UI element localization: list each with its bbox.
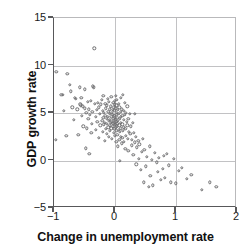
data-point	[61, 93, 64, 96]
data-point	[100, 98, 103, 101]
data-point	[92, 86, 95, 89]
data-point	[127, 117, 130, 120]
data-point	[215, 185, 218, 188]
data-point	[131, 121, 134, 124]
data-point	[151, 183, 154, 186]
data-point	[88, 113, 91, 116]
y-axis-tick	[48, 111, 53, 113]
data-point	[155, 161, 158, 164]
data-point	[110, 95, 113, 98]
data-point	[121, 93, 124, 96]
data-point	[200, 188, 203, 191]
data-point	[130, 144, 133, 147]
data-point	[97, 136, 100, 139]
data-point	[185, 177, 188, 180]
gridline-y	[54, 161, 235, 162]
data-point	[80, 114, 83, 117]
data-point	[64, 134, 67, 137]
data-point	[174, 182, 177, 185]
y-axis-tick-label: 15	[0, 11, 46, 23]
data-point	[72, 118, 75, 121]
data-point	[103, 139, 106, 142]
data-point	[95, 108, 98, 111]
data-point	[88, 152, 91, 155]
data-point	[116, 145, 119, 148]
data-point	[165, 152, 168, 155]
data-point	[132, 153, 135, 156]
data-point	[78, 86, 81, 89]
y-axis-title: GDP growth rate	[25, 34, 39, 204]
data-point	[169, 181, 172, 184]
data-point	[94, 115, 97, 118]
data-point	[126, 137, 129, 140]
data-point	[80, 96, 83, 99]
data-point	[190, 173, 193, 176]
data-point	[83, 88, 86, 91]
data-point	[161, 167, 164, 170]
data-point	[133, 141, 136, 144]
gridline-y	[54, 66, 235, 67]
data-point	[133, 112, 136, 115]
data-point	[90, 122, 93, 125]
data-point	[129, 125, 132, 128]
data-point	[147, 185, 150, 188]
data-point	[163, 176, 166, 179]
data-point	[135, 145, 138, 148]
x-axis-tick-label: 1	[160, 210, 190, 222]
data-point	[86, 117, 89, 120]
plot-area	[53, 17, 236, 207]
data-point	[99, 103, 102, 106]
data-point	[118, 159, 121, 162]
data-point	[167, 164, 170, 167]
y-axis-tick	[48, 159, 53, 161]
data-point	[143, 148, 146, 151]
data-point	[145, 155, 148, 158]
y-axis-tick-label: 10	[0, 59, 46, 71]
data-point	[110, 137, 113, 140]
data-point	[97, 106, 100, 109]
data-point	[141, 137, 144, 140]
data-point	[125, 105, 128, 108]
data-point	[144, 164, 147, 167]
scatter-chart-figure: −5051015−1012 GDP growth rate Change in …	[0, 0, 251, 251]
data-point	[177, 169, 180, 172]
data-point	[139, 168, 142, 171]
x-axis-title: Change in unemployment rate	[0, 230, 251, 244]
y-axis-tick-label: 5	[0, 106, 46, 118]
y-axis-tick	[48, 16, 53, 18]
x-axis-tick-label: 0	[99, 210, 129, 222]
data-point	[98, 112, 101, 115]
data-point	[122, 140, 125, 143]
data-point	[138, 143, 141, 146]
data-point	[77, 133, 80, 136]
data-point	[89, 99, 92, 102]
data-point	[83, 107, 86, 110]
data-point	[119, 96, 122, 99]
data-point	[157, 156, 160, 159]
data-point	[54, 138, 57, 141]
x-axis-tick-label: −1	[38, 210, 68, 222]
data-point	[149, 174, 152, 177]
data-point	[93, 47, 96, 50]
data-point	[74, 97, 77, 100]
data-point	[102, 94, 105, 97]
data-point	[84, 146, 87, 149]
y-axis-tick-label: 0	[0, 154, 46, 166]
data-point	[128, 112, 131, 115]
data-point	[96, 120, 99, 123]
data-point	[107, 100, 110, 103]
data-point	[156, 170, 159, 173]
data-point	[94, 128, 97, 131]
data-point	[71, 106, 74, 109]
data-point	[127, 149, 130, 152]
data-point	[153, 151, 156, 154]
data-point	[135, 163, 138, 166]
data-point	[85, 126, 88, 129]
data-point	[68, 83, 71, 86]
data-point	[148, 145, 151, 148]
data-point	[66, 72, 69, 75]
data-point	[89, 131, 92, 134]
data-point	[180, 166, 183, 169]
data-point	[69, 89, 72, 92]
y-axis-tick	[48, 64, 53, 66]
